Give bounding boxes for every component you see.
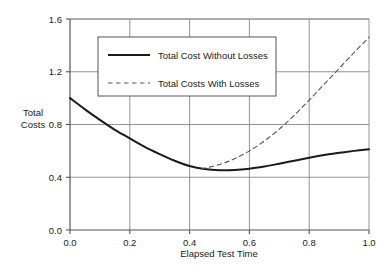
x-tick-label: 0.8 [303,237,316,248]
x-axis-title: Elapsed Test Time [180,248,257,259]
y-axis-title-line2: Costs [21,119,46,130]
y-axis-tick-labels: 0.00.40.81.21.6 [49,14,62,236]
x-axis-tick-labels: 0.00.20.40.60.81.0 [63,237,375,248]
x-tick-label: 0.0 [63,237,76,248]
x-axis-ticks [70,230,369,234]
y-tick-label: 0.4 [49,172,62,183]
legend-label-with-losses: Total Costs With Losses [158,78,260,89]
x-tick-label: 0.6 [243,237,256,248]
y-tick-label: 0.8 [49,119,62,130]
chart-container: 0.00.40.81.21.6 0.00.20.40.60.81.0 Elaps… [0,0,385,269]
legend-label-without-losses: Total Cost Without Losses [158,50,268,61]
y-tick-label: 1.6 [49,14,62,25]
x-tick-label: 0.2 [123,237,136,248]
y-axis-title-line1: Total [23,107,43,118]
x-tick-label: 0.4 [183,237,196,248]
total-costs-line-chart: 0.00.40.81.21.6 0.00.20.40.60.81.0 Elaps… [0,0,385,269]
y-tick-label: 1.2 [49,66,62,77]
y-tick-label: 0.0 [49,225,62,236]
x-tick-label: 1.0 [362,237,375,248]
chart-legend: Total Cost Without Losses Total Costs Wi… [98,37,276,96]
